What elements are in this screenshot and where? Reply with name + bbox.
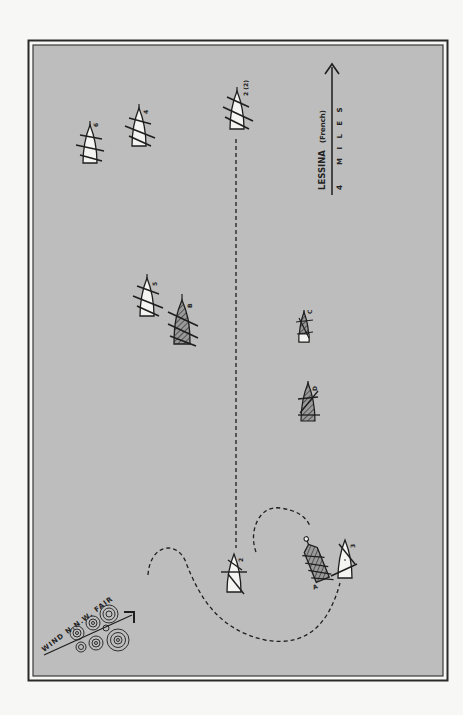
ship-label-3: 3: [349, 544, 356, 548]
ship-label-4: 4: [142, 110, 149, 114]
ship-label-D: D: [311, 386, 318, 391]
ship-label-C: C: [306, 309, 313, 314]
ship-label-B: B: [186, 303, 193, 308]
ship-label-5: 5: [151, 282, 158, 286]
ship-label-2: 2: [237, 558, 244, 562]
scale-units: M I L E S: [336, 104, 344, 165]
ship-label-6: 6: [92, 123, 99, 127]
scale-title: LESSINA (French): [317, 110, 327, 190]
naval-battle-diagram: LESSINA (French) 4 M I L E S 6 4: [0, 0, 463, 715]
ship-label-2-2: 2 (2): [242, 80, 249, 96]
scale-distance: 4: [335, 185, 344, 190]
